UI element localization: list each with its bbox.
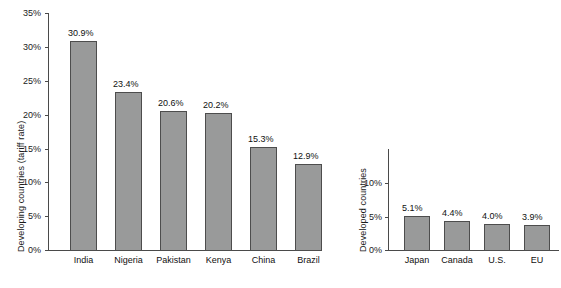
bar-value-us: 4.0% xyxy=(482,211,503,221)
bar-eu[interactable] xyxy=(524,225,550,251)
bar-china[interactable] xyxy=(250,147,277,251)
developed-countries-chart: Developed countries 10% 5% 0% 5.1% Japan… xyxy=(336,0,561,288)
bar-value-pakistan: 20.6% xyxy=(158,98,184,108)
left-ytick-10 xyxy=(45,182,49,183)
bar-kenya[interactable] xyxy=(205,113,232,251)
category-label-brazil: Brazil xyxy=(279,255,338,265)
right-y-axis-line xyxy=(388,149,389,251)
left-ytick-15 xyxy=(45,149,49,150)
left-ytick-label-20: 20% xyxy=(5,110,41,120)
left-ytick-label-15: 15% xyxy=(5,144,41,154)
bar-value-eu: 3.9% xyxy=(522,212,543,222)
left-ytick-25 xyxy=(45,81,49,82)
right-ytick-label-10: 10% xyxy=(346,178,382,188)
bar-pakistan[interactable] xyxy=(160,111,187,251)
bar-india[interactable] xyxy=(70,41,97,251)
category-label-eu: EU xyxy=(508,255,561,265)
bar-value-nigeria: 23.4% xyxy=(113,79,139,89)
left-ytick-label-10: 10% xyxy=(5,177,41,187)
left-ytick-30 xyxy=(45,47,49,48)
left-ytick-label-0: 0% xyxy=(5,245,41,255)
left-ytick-label-35: 35% xyxy=(5,8,41,18)
right-ytick-10 xyxy=(385,183,389,184)
bar-japan[interactable] xyxy=(404,216,430,251)
bar-chart-figure: Developing countries (tariff rate) 35% 3… xyxy=(0,0,561,288)
left-ytick-35 xyxy=(45,13,49,14)
left-ytick-label-30: 30% xyxy=(5,42,41,52)
bar-canada[interactable] xyxy=(444,221,470,251)
developing-countries-chart: Developing countries (tariff rate) 35% 3… xyxy=(0,0,330,288)
bar-value-india: 30.9% xyxy=(68,28,94,38)
left-ytick-label-25: 25% xyxy=(5,76,41,86)
bar-brazil[interactable] xyxy=(295,164,322,251)
bar-value-japan: 5.1% xyxy=(402,203,423,213)
bar-us[interactable] xyxy=(484,224,510,251)
right-ytick-label-0: 0% xyxy=(346,245,382,255)
right-ytick-0 xyxy=(385,250,389,251)
bar-value-brazil: 12.9% xyxy=(293,151,319,161)
left-ytick-5 xyxy=(45,216,49,217)
right-ytick-5 xyxy=(385,217,389,218)
left-ytick-20 xyxy=(45,115,49,116)
bar-nigeria[interactable] xyxy=(115,92,142,251)
bar-value-canada: 4.4% xyxy=(442,208,463,218)
left-ytick-0 xyxy=(45,250,49,251)
bar-value-china: 15.3% xyxy=(248,134,274,144)
left-ytick-label-5: 5% xyxy=(5,211,41,221)
right-ytick-label-5: 5% xyxy=(346,212,382,222)
bar-value-kenya: 20.2% xyxy=(203,100,229,110)
